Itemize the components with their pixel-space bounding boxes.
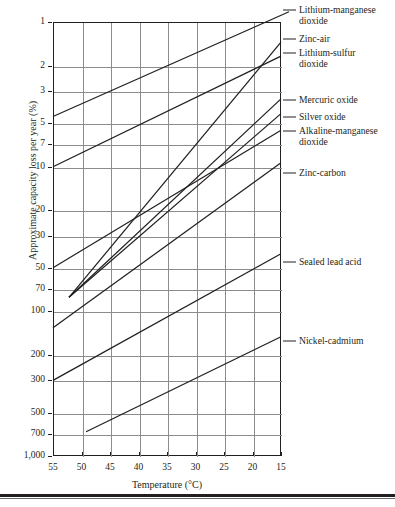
x-tick-label: 50 — [77, 462, 87, 472]
y-tick-label: 5 — [40, 118, 45, 128]
y-tick-label: 100 — [31, 306, 45, 316]
y-tick-mark — [48, 456, 52, 457]
y-tick-label: 2 — [40, 61, 45, 71]
x-tick-label: 55 — [48, 462, 58, 472]
plot-area-wrapper: 1235710203050701002003005007001,000 5550… — [0, 0, 395, 470]
y-tick-label: 200 — [31, 350, 45, 360]
annotation-lithium-sulfur-dioxide: Lithium-sulfur dioxide — [299, 47, 356, 69]
y-tick-label: 300 — [31, 375, 45, 385]
series-line-mercuric-oxide — [69, 99, 281, 297]
y-tick-label: 1,000 — [24, 451, 45, 461]
y-tick-mark — [48, 413, 52, 414]
footer-rule-thin — [0, 498, 395, 499]
x-tick-label: 25 — [219, 462, 229, 472]
annotation-lithium-manganese-dioxide: Lithium-manganese dioxide — [299, 4, 376, 26]
x-tick-label: 15 — [276, 462, 286, 472]
annotation-zinc-air: Zinc-air — [299, 33, 330, 44]
annotation-silver-oxide: Silver oxide — [299, 111, 346, 122]
annotation-nickel-cadmium: Nickel-cadmium — [299, 335, 363, 346]
y-tick-mark — [48, 236, 52, 237]
annotation-sealed-lead-acid: Sealed lead acid — [299, 256, 361, 267]
y-tick-mark — [48, 91, 52, 92]
x-tick-label: 40 — [134, 462, 144, 472]
annotation-alkaline-manganese-dioxide: Alkaline-manganese dioxide — [299, 125, 378, 147]
y-axis-title: Approximate capacity loss per year (%) — [27, 91, 38, 271]
data-lines — [0, 0, 395, 470]
x-tick-mark — [53, 452, 54, 456]
chart-figure: 1235710203050701002003005007001,000 5550… — [0, 0, 395, 507]
y-tick-mark — [48, 289, 52, 290]
y-tick-mark — [48, 380, 52, 381]
y-tick-mark — [48, 355, 52, 356]
annotation-mercuric-oxide: Mercuric oxide — [299, 94, 358, 105]
y-tick-label: 700 — [31, 429, 45, 439]
x-tick-mark — [82, 452, 83, 456]
y-tick-mark — [48, 311, 52, 312]
x-axis-title: Temperature (°C) — [53, 479, 281, 490]
y-tick-mark — [48, 144, 52, 145]
y-tick-mark — [48, 66, 52, 67]
x-tick-label: 45 — [105, 462, 115, 472]
x-tick-mark — [167, 452, 168, 456]
annotation-zinc-carbon: Zinc-carbon — [299, 167, 346, 178]
y-tick-mark — [48, 167, 52, 168]
series-line-silver-oxide — [69, 114, 281, 298]
y-tick-mark — [48, 123, 52, 124]
y-tick-mark — [48, 268, 52, 269]
footer-rule-thick — [0, 494, 395, 497]
x-tick-mark — [110, 452, 111, 456]
y-tick-label: 500 — [31, 408, 45, 418]
series-line-nickel-cadmium — [86, 337, 281, 432]
x-tick-label: 20 — [248, 462, 258, 472]
y-tick-mark — [48, 210, 52, 211]
series-line-sealed-lead-acid — [53, 254, 281, 381]
y-tick-label: 7 — [40, 139, 45, 149]
y-tick-label: 3 — [40, 86, 45, 96]
x-tick-mark — [224, 452, 225, 456]
series-line-alkaline-manganese-dioxide — [53, 130, 281, 268]
x-tick-mark — [139, 452, 140, 456]
y-tick-label: 70 — [36, 284, 46, 294]
y-tick-mark — [48, 434, 52, 435]
series-line-zinc-carbon — [53, 163, 281, 328]
x-tick-mark — [196, 452, 197, 456]
x-tick-label: 35 — [162, 462, 172, 472]
x-tick-label: 30 — [191, 462, 201, 472]
y-axis-ticks: 1235710203050701002003005007001,000 — [0, 0, 49, 470]
x-tick-mark — [281, 452, 282, 456]
x-tick-mark — [253, 452, 254, 456]
series-line-zinc-air — [69, 42, 281, 297]
